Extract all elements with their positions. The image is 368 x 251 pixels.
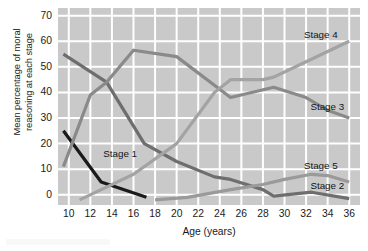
x-axis-title: Age (years): [58, 226, 360, 237]
series-label-stage-2: Stage 2: [310, 180, 344, 191]
series-label-stage-5: Stage 5: [304, 160, 338, 171]
series-label-stage-3: Stage 3: [310, 101, 344, 112]
y-tick-label: 40: [30, 86, 52, 97]
y-axis-title-line1: Mean percentage of moral: [11, 28, 23, 135]
y-tick-label: 20: [30, 138, 52, 149]
y-tick-label: 10: [30, 163, 52, 174]
y-tick-label: 30: [30, 112, 52, 123]
y-tick-label: 50: [30, 61, 52, 72]
caption-artifact: [6, 239, 110, 245]
y-tick-label: 0: [30, 189, 52, 200]
x-tick-label: 36: [336, 208, 362, 219]
series-label-stage-4: Stage 4: [304, 29, 338, 40]
y-tick-label: 60: [30, 35, 52, 46]
moral-reasoning-line-chart: Mean percentage of moral reasoning at ea…: [0, 0, 368, 251]
series-label-stage-1: Stage 1: [103, 148, 137, 159]
y-tick-label: 70: [30, 10, 52, 21]
plot-area: Stage 1Stage 2Stage 3Stage 4Stage 5: [58, 8, 360, 205]
